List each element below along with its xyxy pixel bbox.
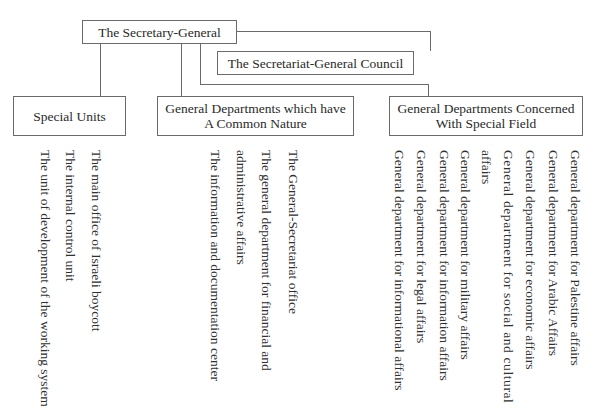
- special-field-item: General department for military affairs: [457, 150, 473, 360]
- council-label: The Secretariat-General Council: [228, 56, 403, 71]
- special-units-label: Special Units: [33, 109, 105, 124]
- special-unit-item: The main office of Israeli boycott: [88, 150, 104, 332]
- special-unit-item: The unit of development of the working s…: [37, 150, 53, 407]
- secretary-general-label: The Secretary-General: [98, 25, 221, 40]
- common-nature-item: The general department for financial and: [258, 150, 274, 371]
- connector-root-to-special-field-v: [200, 43, 201, 84]
- special-field-item: General department for informational aff…: [391, 150, 407, 390]
- common-nature-item: administrative affairs: [233, 150, 249, 265]
- secretary-general-box: The Secretary-General: [82, 20, 237, 44]
- connector-root-to-common-nature: [181, 43, 182, 97]
- council-box: The Secretariat-General Council: [217, 51, 414, 75]
- common-nature-item: The information and documentation center: [207, 150, 223, 381]
- special-field-item: General department for information affai…: [436, 150, 452, 381]
- special-field-item: General department for economic affairs: [522, 150, 538, 369]
- common-nature-label-line1: General Departments which have: [165, 101, 345, 116]
- special-field-item: General department for Palestine affairs: [567, 150, 583, 366]
- special-field-label-line2: With Special Field: [436, 116, 537, 131]
- common-nature-box: General Departments which have A Common …: [157, 96, 354, 136]
- special-units-box: Special Units: [13, 96, 126, 136]
- connector-root-to-special-units: [100, 43, 101, 97]
- connector-root-to-council-v: [430, 31, 431, 51]
- connector-root-to-council-h: [236, 31, 431, 32]
- common-nature-label-line2: A Common Nature: [204, 116, 307, 131]
- special-field-item: General department for social and cultur…: [500, 150, 516, 403]
- special-unit-item: The internal control unit: [62, 150, 78, 282]
- connector-root-to-special-field-h: [200, 84, 429, 85]
- special-field-item: General department for legal affairs: [413, 150, 429, 343]
- common-nature-item: The General-Secretariat office: [285, 150, 301, 314]
- special-field-label-line1: General Departments Concerned: [398, 101, 575, 116]
- special-field-item: General department for Arabic Affairs: [545, 150, 561, 356]
- special-field-item: affairs: [478, 150, 494, 184]
- special-field-box: General Departments Concerned With Speci…: [389, 96, 583, 136]
